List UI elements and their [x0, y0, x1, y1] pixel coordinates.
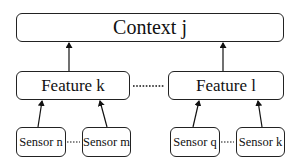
feature-label: Feature k — [41, 76, 105, 96]
sensor-label: Sensor q — [173, 135, 216, 150]
edge-sensor-q-to-feature-l — [193, 101, 199, 127]
edge-sensor-k-to-feature-l — [258, 101, 262, 127]
sensor-label: Sensor n — [19, 135, 62, 150]
feature-label: Feature l — [196, 76, 256, 96]
edge-sensor-n-to-feature-k — [38, 101, 42, 127]
sensor-node-n: Sensor n — [16, 127, 66, 157]
context-label: Context j — [113, 16, 187, 39]
sensor-node-k: Sensor k — [236, 127, 285, 157]
sensor-label: Sensor m — [83, 135, 130, 150]
feature-node-k: Feature k — [16, 71, 130, 100]
sensor-node-m: Sensor m — [82, 127, 131, 157]
sensor-node-q: Sensor q — [170, 127, 220, 157]
context-node: Context j — [16, 13, 284, 42]
sensor-label: Sensor k — [239, 135, 282, 150]
feature-node-l: Feature l — [168, 71, 284, 100]
edge-sensor-m-to-feature-k — [100, 101, 107, 127]
